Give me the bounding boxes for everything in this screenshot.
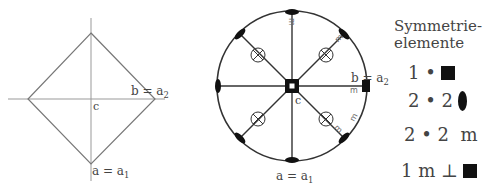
stereo-a-label: a = a1 [276, 170, 313, 184]
stereo-c-label: c [295, 95, 301, 106]
svg-text:m: m [287, 18, 296, 26]
stereo-b-label: b = a2 [351, 72, 389, 86]
legend-title-line1: Symmetrie- [394, 18, 482, 35]
svg-text:m: m [332, 123, 344, 135]
svg-text:m: m [350, 86, 358, 95]
legend-row-3: 2 • 2 m [404, 124, 477, 145]
legend-row-text: 2 • 2 m [404, 124, 477, 145]
legend-row-1: 1 • [408, 62, 455, 83]
left-axes [8, 18, 165, 181]
legend-title-line2: elemente [394, 35, 482, 52]
legend-row-text: 2 • 2 [408, 90, 453, 111]
left-b-label: b = a2 [131, 85, 169, 99]
square-icon [463, 164, 477, 178]
left-c-label: c [93, 101, 99, 112]
stereogram [215, 9, 370, 163]
left-a-label: a = a1 [92, 165, 129, 179]
legend-row-4: 1 m ⊥ [401, 160, 477, 181]
legend-title: Symmetrie- elemente [394, 18, 482, 52]
square-icon [441, 66, 455, 80]
legend-row-text: 1 m ⊥ [401, 160, 458, 181]
ellipse-icon [458, 91, 467, 111]
legend-row-2: 2 • 2 [408, 90, 467, 111]
legend-row-text: 1 • [408, 62, 436, 83]
